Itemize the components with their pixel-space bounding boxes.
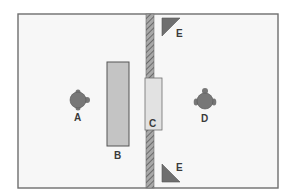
label-b: B xyxy=(114,150,121,161)
floor-plan-diagram: B C A D E E xyxy=(0,0,301,196)
panel-b xyxy=(107,62,129,146)
label-a: A xyxy=(74,112,81,123)
label-c: C xyxy=(149,118,156,129)
label-d: D xyxy=(201,113,208,124)
label-e-top: E xyxy=(176,28,183,39)
label-e-bottom: E xyxy=(176,162,183,173)
